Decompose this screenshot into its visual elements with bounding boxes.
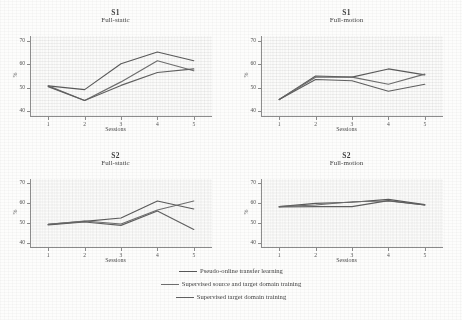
panel-title-line2: Full-motion [231,160,462,167]
y-axis-tick-label: 60 [10,61,25,67]
plot-area: 4050607012345 [261,36,443,116]
series-lines [261,36,443,116]
series-lines [30,179,212,247]
y-axis-tick-label: 40 [241,108,256,114]
x-axis-title: Sessions [0,126,231,132]
panel-title-line2: Full-static [0,17,231,24]
series-line [279,80,425,100]
panel-title: S1 Full-static [0,9,231,24]
panel-title-line2: Full-static [0,160,231,167]
panel-title: S2 Full-motion [231,152,462,167]
x-axis-tick [388,117,389,120]
x-axis-tick [157,117,158,120]
plot-area: 4050607012345 [30,36,212,116]
x-axis-tick [425,117,426,120]
y-axis-tick-label: 50 [241,220,256,226]
x-axis-tick [279,248,280,251]
x-axis-tick [194,248,195,251]
y-axis-title: % [12,68,18,82]
x-axis-tick [316,117,317,120]
x-axis-title: Sessions [231,126,462,132]
x-axis-tick [194,117,195,120]
legend-label: Pseudo-online transfer learning [200,268,283,275]
y-axis-title: % [12,205,18,219]
x-axis-tick [279,117,280,120]
y-axis-tick-label: 70 [241,38,256,44]
series-line [279,74,425,99]
series-lines [261,179,443,247]
plot-area: 4050607012345 [30,179,212,247]
y-axis-tick-label: 40 [10,108,25,114]
x-axis-title: Sessions [231,257,462,263]
legend-item: Pseudo-online transfer learning [179,266,283,277]
panel-s1-full-static: S1 Full-static 4050607012345 Sessions % [0,0,231,155]
legend-line-swatch [176,297,194,298]
y-axis-tick-label: 70 [10,38,25,44]
x-axis-tick [388,248,389,251]
figure-panel-grid: S1 Full-static 4050607012345 Sessions % … [0,0,462,262]
legend-item: Supervised target domain training [176,292,286,303]
y-axis-tick-label: 60 [241,61,256,67]
legend-label: Supervised target domain training [197,294,286,301]
legend-item: Supervised source and target domain trai… [161,279,301,290]
x-axis-title: Sessions [0,257,231,263]
series-line [48,69,194,101]
y-axis-tick-label: 50 [10,220,25,226]
series-line [48,201,194,224]
x-axis-tick [48,248,49,251]
x-axis-tick [316,248,317,251]
y-axis-tick-label: 50 [241,85,256,91]
y-axis-title: % [243,68,249,82]
x-axis-tick [352,248,353,251]
panel-s2-full-motion: S2 Full-motion 4050607012345 Sessions % [231,155,462,262]
legend-label: Supervised source and target domain trai… [182,281,301,288]
x-axis-tick [85,117,86,120]
y-axis-tick-label: 70 [241,180,256,186]
y-axis-tick-label: 40 [241,240,256,246]
legend-line-swatch [161,284,179,285]
figure-legend: Pseudo-online transfer learningSupervise… [0,266,462,312]
y-axis-title: % [243,205,249,219]
panel-title: S1 Full-motion [231,9,462,24]
x-axis-tick [48,117,49,120]
x-axis-tick [352,117,353,120]
panel-title-line2: Full-motion [231,17,462,24]
x-axis-tick [85,248,86,251]
series-line [48,211,194,229]
panel-title: S2 Full-static [0,152,231,167]
x-axis-tick [121,248,122,251]
series-lines [30,36,212,116]
x-axis-tick [121,117,122,120]
y-axis-tick-label: 70 [10,180,25,186]
y-axis-tick-label: 50 [10,85,25,91]
x-axis-tick [425,248,426,251]
legend-line-swatch [179,271,197,272]
panel-s1-full-motion: S1 Full-motion 4050607012345 Sessions % [231,0,462,155]
plot-area: 4050607012345 [261,179,443,247]
series-line [279,69,425,100]
panel-s2-full-static: S2 Full-static 4050607012345 Sessions % [0,155,231,262]
y-axis-tick-label: 40 [10,240,25,246]
x-axis-tick [157,248,158,251]
